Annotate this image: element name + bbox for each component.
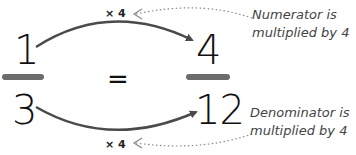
numerator-annotation-line1: Numerator is (252, 6, 349, 24)
right-fraction-bar (186, 74, 230, 80)
right-numerator: 4 (196, 30, 220, 70)
equivalent-fractions-diagram: 1 3 = 4 12 × 4 × 4 Numerator is multipli… (0, 0, 356, 155)
equals-sign: = (107, 66, 129, 92)
bottom-dotted-leader-icon (136, 134, 252, 146)
denominator-arrow-icon (36, 107, 196, 130)
numerator-annotation: Numerator is multiplied by 4 (252, 6, 349, 42)
top-dotted-leader-icon (136, 8, 252, 18)
numerator-annotation-line2: multiplied by 4 (252, 24, 349, 42)
denominator-annotation: Denominator is multiplied by 4 (250, 104, 350, 140)
denominator-annotation-line1: Denominator is (250, 104, 350, 122)
numerator-arrow-icon (36, 22, 192, 47)
left-denominator: 3 (12, 90, 36, 130)
right-denominator: 12 (195, 90, 244, 130)
left-fraction-bar (2, 74, 44, 80)
top-multiplier: × 4 (105, 8, 126, 19)
denominator-annotation-line2: multiplied by 4 (250, 122, 350, 140)
left-numerator: 1 (14, 30, 38, 70)
bottom-multiplier: × 4 (105, 139, 126, 150)
